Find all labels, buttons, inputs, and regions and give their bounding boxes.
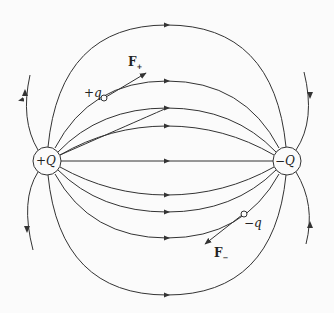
force-positive-label: F+ xyxy=(128,55,142,71)
positive-charge-label: +Q xyxy=(36,154,56,168)
negative-test-charge-label: −q xyxy=(244,216,262,230)
negative-charge-label: −Q xyxy=(275,154,295,168)
positive-test-charge-label: +q xyxy=(84,86,102,100)
dipole-field-diagram: +Q −Q +q −q F+ F− xyxy=(0,0,334,313)
force-negative-label: F− xyxy=(214,246,228,262)
